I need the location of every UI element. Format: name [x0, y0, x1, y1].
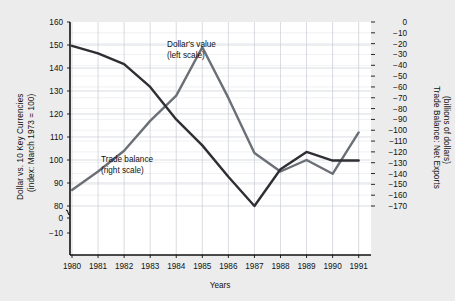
chart-container: 16015014013012011010090800−10 0−10−20−30… [0, 0, 455, 301]
right-axis-tick-label: −40 [393, 61, 407, 70]
x-axis-tick-label: 1986 [219, 262, 238, 271]
x-axis-tick-label: 1988 [271, 262, 290, 271]
right-axis-tick-label: −160 [389, 191, 408, 200]
right-axis-tick-label: −10 [393, 29, 407, 38]
left-axis-tick-label: 110 [50, 133, 63, 142]
left-axis-tick-label: 120 [49, 110, 63, 119]
chart-figure: 16015014013012011010090800−10 0−10−20−30… [0, 0, 455, 301]
left-axis-tick-label: 100 [49, 156, 63, 165]
left-axis-tick-label: −10 [49, 229, 63, 238]
x-axis-title: Years [210, 281, 231, 290]
right-axis-tick-label: −130 [389, 159, 408, 168]
right-axis-title-line1: Trade Balance: Net Exports [432, 86, 441, 189]
x-axis-tick-label: 1983 [141, 262, 160, 271]
x-axis-tick-label: 1990 [323, 262, 342, 271]
right-axis-tick-label: 0 [402, 18, 407, 27]
right-axis-tick-label: −120 [389, 148, 408, 157]
left-axis-tick-label: 90 [54, 179, 64, 188]
dollar-series-annotation-line2: (left scale) [167, 51, 205, 60]
x-axis-tick-label: 1991 [350, 262, 369, 271]
right-axis-tick-label: −90 [393, 115, 407, 124]
left-axis-title-line1: Dollar vs. 10 Key Currencies [16, 93, 25, 200]
left-axis-tick-label: 140 [49, 64, 63, 73]
right-axis-tick-label: −80 [393, 105, 407, 114]
x-axis-tick-label: 1981 [89, 262, 108, 271]
dollar-series-annotation-line1: Dollar's value [167, 40, 216, 49]
right-axis-tick-label: −100 [389, 126, 408, 135]
plot-background [70, 22, 371, 255]
right-axis-tick-label: −70 [393, 94, 407, 103]
right-axis-tick-label: −150 [389, 180, 408, 189]
right-axis-tick-label: −110 [389, 137, 407, 146]
right-axis-title-line2: (billions of dollars) [442, 96, 451, 164]
left-axis-tick-label: 0 [58, 214, 63, 223]
left-axis-tick-label: 130 [49, 87, 63, 96]
right-axis-tick-label: −50 [393, 72, 407, 81]
right-axis-tick-label: −140 [389, 170, 408, 179]
left-axis-tick-label: 80 [54, 202, 64, 211]
left-axis-tick-label: 150 [49, 41, 63, 50]
right-axis-tick-label: −60 [393, 83, 407, 92]
left-axis-tick-label: 160 [49, 18, 63, 27]
trade-series-annotation-line2: (right scale) [101, 166, 144, 175]
x-axis-tick-label: 1984 [167, 262, 186, 271]
trade-series-annotation-line1: Trade balance [101, 155, 153, 164]
right-axis-tick-label: −170 [389, 202, 408, 211]
x-axis-tick-label: 1980 [63, 262, 82, 271]
left-axis-title-line2: (index: March 1973 = 100) [27, 94, 36, 192]
right-axis-tick-label: −30 [393, 50, 407, 59]
x-axis-tick-label: 1985 [193, 262, 212, 271]
x-axis-tick-label: 1982 [115, 262, 134, 271]
x-axis-tick-label: 1987 [245, 262, 264, 271]
right-axis-tick-label: −20 [393, 40, 407, 49]
x-axis-tick-label: 1989 [297, 262, 316, 271]
